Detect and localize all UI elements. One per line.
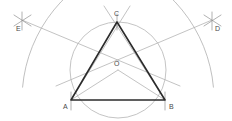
- point-label-B: B: [169, 103, 174, 110]
- point-label-O: O: [114, 60, 119, 67]
- point-label-E: E: [16, 25, 21, 32]
- line-O-to-B: [118, 70, 165, 100]
- line-O-to-A: [71, 70, 118, 100]
- geometry-figure: ABCODE: [0, 0, 232, 121]
- line-D-to-A: [56, 20, 212, 86]
- line-E-to-B: [22, 20, 180, 86]
- arc-centered-at-A: [113, 0, 214, 88]
- arc-centered-at-B: [23, 0, 124, 88]
- point-label-A: A: [63, 103, 68, 110]
- point-label-D: D: [215, 25, 220, 32]
- point-label-C: C: [114, 10, 119, 17]
